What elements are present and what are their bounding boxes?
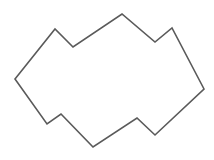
diagram-canvas bbox=[0, 0, 214, 160]
irregular-polygon-outline bbox=[15, 14, 204, 147]
